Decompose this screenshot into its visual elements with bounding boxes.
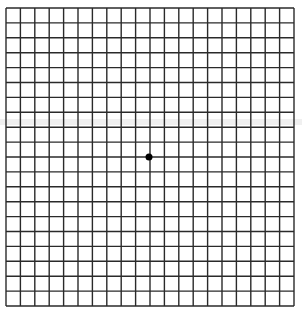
scan-band (0, 119, 302, 125)
scan-artifacts (0, 119, 302, 125)
fixation-dot (146, 154, 153, 161)
amsler-grid (0, 0, 302, 319)
